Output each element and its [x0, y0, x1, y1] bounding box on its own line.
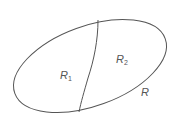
outer-region-label: R [141, 86, 149, 98]
outer-region-boundary [1, 1, 176, 122]
region-r1-label: R1 [60, 69, 72, 82]
region-diagram: R1 R2 R [0, 0, 176, 122]
region-r2-label: R2 [116, 53, 128, 66]
dividing-curve [79, 20, 98, 112]
